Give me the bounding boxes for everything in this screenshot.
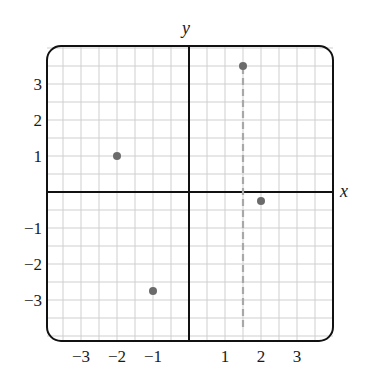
y-tick-label: −2 <box>24 255 42 274</box>
y-tick-label: 3 <box>34 75 43 94</box>
y-tick-label: 1 <box>34 147 43 166</box>
y-tick-label: 2 <box>34 111 43 130</box>
x-tick-label: −3 <box>72 347 90 366</box>
x-tick-label: 1 <box>221 347 230 366</box>
data-point <box>257 197 265 205</box>
y-tick-label: −1 <box>24 219 42 238</box>
x-tick-label: −1 <box>144 347 162 366</box>
x-axis-label: x <box>339 181 348 201</box>
data-point <box>239 62 247 70</box>
coordinate-plane: −3−2−1123321−1−2−3 y x <box>0 0 368 376</box>
data-point <box>113 152 121 160</box>
x-tick-label: −2 <box>108 347 126 366</box>
y-tick-label: −3 <box>24 291 42 310</box>
axes <box>47 46 333 341</box>
y-axis-label: y <box>180 18 190 38</box>
tick-labels: −3−2−1123321−1−2−3 <box>24 75 301 366</box>
x-tick-label: 2 <box>257 347 266 366</box>
data-point <box>149 287 157 295</box>
x-tick-label: 3 <box>293 347 302 366</box>
